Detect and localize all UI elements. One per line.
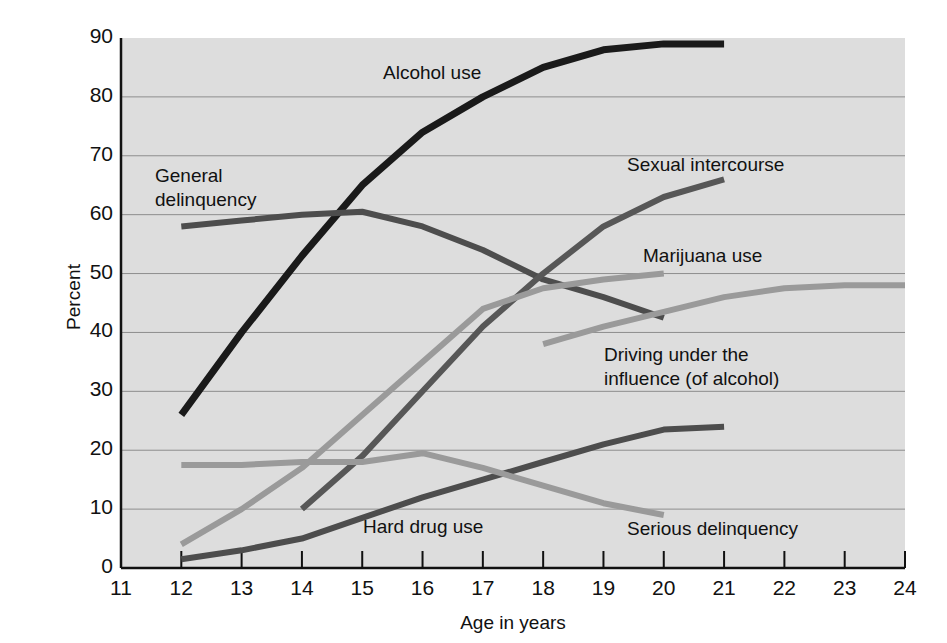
x-tick-label: 21 [702,576,746,600]
y-tick-label: 30 [59,377,113,401]
x-tick-label: 22 [762,576,806,600]
x-tick-label: 23 [823,576,867,600]
x-tick-label: 18 [521,576,565,600]
series-label-4: Marijuana use [643,245,762,267]
x-tick-label: 20 [642,576,686,600]
series-label-0: Alcohol use [383,62,481,84]
y-tick-label: 0 [59,554,113,578]
x-tick-label: 12 [159,576,203,600]
y-tick-label: 70 [59,142,113,166]
series-line-1 [181,212,663,318]
series-line-6 [181,453,663,515]
line-chart: 0102030405060708090 11121314151617181920… [0,0,947,643]
x-tick-label: 15 [340,576,384,600]
x-tick-label: 19 [581,576,625,600]
x-tick-label: 16 [401,576,445,600]
series-label-5: Driving under the [604,344,749,366]
series-label-7: Hard drug use [363,516,483,538]
y-tick-label: 80 [59,83,113,107]
x-tick-label: 11 [99,576,143,600]
x-tick-label: 17 [461,576,505,600]
series-label-8: Serious delinquency [627,518,798,540]
x-tick-label: 14 [280,576,324,600]
series-lines [181,44,905,559]
series-label-6: influence (of alcohol) [604,368,779,390]
chart-canvas [0,0,947,643]
series-label-3: Sexual intercourse [627,154,784,176]
series-label-1: General [155,165,223,187]
x-tick-label: 24 [883,576,927,600]
x-tick-marks [181,551,905,568]
y-tick-label: 90 [59,24,113,48]
y-tick-label: 10 [59,495,113,519]
x-tick-label: 13 [220,576,264,600]
y-axis-title: Percent [63,217,85,377]
y-tick-label: 20 [59,436,113,460]
series-label-2: delinquency [155,189,256,211]
x-axis-title: Age in years [121,612,905,634]
